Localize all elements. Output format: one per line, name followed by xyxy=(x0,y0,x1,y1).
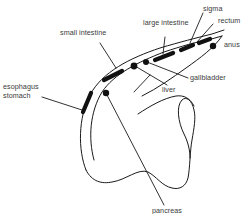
leader-gallbladder xyxy=(147,62,188,78)
leader-liver-extension xyxy=(134,75,150,92)
label-rectum: rectum xyxy=(218,17,240,25)
rectum-segment xyxy=(199,39,210,43)
liver-dot xyxy=(131,63,138,70)
leader-liver xyxy=(135,66,167,85)
label-pancreas: pancreas xyxy=(152,207,182,214)
label-stomach: stomach xyxy=(3,92,31,100)
label-sigma: sigma xyxy=(203,5,222,13)
leader-small-intestine xyxy=(100,43,116,68)
body-outline-inner xyxy=(91,36,222,160)
label-liver: liver xyxy=(162,86,175,94)
esophagus-stomach-segment xyxy=(83,93,91,112)
gallbladder-dot xyxy=(143,59,149,65)
body-outline-outer xyxy=(80,30,224,170)
leader-sigma xyxy=(190,13,203,43)
label-esophagus: esophagus xyxy=(3,83,39,91)
leader-esophagus-stomach xyxy=(42,97,82,110)
anatomy-diagram: sigma large intestine rectum anus small … xyxy=(0,0,242,214)
diagram-drawing xyxy=(0,0,242,214)
label-small-intestine: small intestine xyxy=(60,29,106,37)
pancreas-dot xyxy=(103,90,109,96)
label-gallbladder: gallbladder xyxy=(190,74,226,82)
label-large-intestine: large intestine xyxy=(143,19,189,27)
anus-dot xyxy=(210,43,216,49)
leader-pancreas xyxy=(107,95,164,205)
label-anus: anus xyxy=(224,41,240,49)
